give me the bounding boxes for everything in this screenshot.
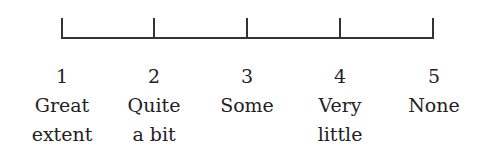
scale-label-line1: Great <box>17 91 107 120</box>
scale-label-line2: extent <box>17 120 107 149</box>
scale-point-3: 3 Some <box>202 62 292 120</box>
scale-tick-3 <box>246 18 248 39</box>
scale-tick-5 <box>432 18 434 39</box>
scale-label-line1: None <box>389 91 479 120</box>
scale-point-1: 1 Great extent <box>17 62 107 149</box>
scale-value: 5 <box>389 62 479 91</box>
scale-value: 4 <box>295 62 385 91</box>
scale-tick-4 <box>339 18 341 39</box>
scale-point-5: 5 None <box>389 62 479 120</box>
scale-value: 2 <box>109 62 199 91</box>
scale-point-4: 4 Very little <box>295 62 385 149</box>
scale-label-line1: Quite <box>109 91 199 120</box>
scale-value: 3 <box>202 62 292 91</box>
scale-point-2: 2 Quite a bit <box>109 62 199 149</box>
scale-label-line2: a bit <box>109 120 199 149</box>
scale-tick-1 <box>61 18 63 39</box>
scale-label-line1: Very <box>295 91 385 120</box>
scale-label-line2: little <box>295 120 385 149</box>
scale-label-line1: Some <box>202 91 292 120</box>
scale-tick-2 <box>153 18 155 39</box>
scale-value: 1 <box>17 62 107 91</box>
